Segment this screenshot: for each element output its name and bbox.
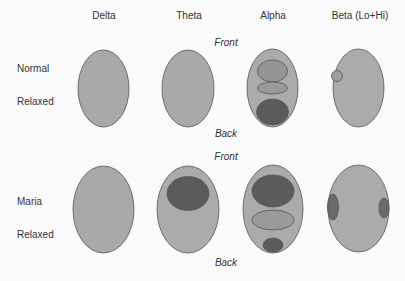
head-normal-beta — [333, 49, 384, 127]
alpha-mid-region — [258, 82, 288, 94]
head-normal-theta — [162, 50, 214, 127]
beta-left-region — [328, 194, 339, 220]
alpha-front-region — [258, 60, 288, 82]
beta-left-spot — [332, 71, 343, 82]
head-normal-delta — [78, 50, 129, 127]
alpha-back-region — [257, 99, 289, 125]
alpha-mid-region-maria — [252, 210, 294, 230]
alpha-front-region-maria — [252, 175, 294, 207]
head-maria-delta — [73, 166, 134, 253]
alpha-back-region-maria — [263, 238, 283, 252]
beta-right-region — [379, 198, 389, 218]
brainwave-diagram — [0, 0, 405, 281]
theta-front-region — [167, 177, 209, 211]
